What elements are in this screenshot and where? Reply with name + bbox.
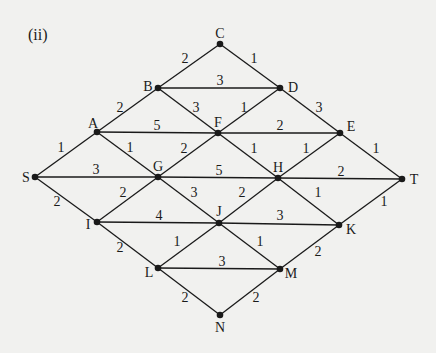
edge-weight-E-H: 1 (303, 141, 310, 156)
edge-S-A (35, 132, 97, 177)
edge-weight-A-B: 2 (117, 100, 124, 115)
edge-weight-N-M: 2 (253, 290, 260, 305)
edge-I-L (97, 222, 158, 268)
edge-weight-B-C: 2 (182, 51, 189, 66)
node-label-T: T (410, 172, 419, 187)
edge-B-C (158, 44, 220, 88)
edge-weight-I-J: 4 (156, 208, 163, 223)
node-label-K: K (346, 222, 356, 237)
edge-weight-C-D: 1 (251, 51, 258, 66)
edge-weight-I-L: 2 (117, 240, 124, 255)
edge-F-G (158, 133, 218, 177)
edge-H-J (219, 178, 278, 223)
edge-J-M (219, 223, 280, 269)
edge-D-F (218, 88, 280, 133)
edge-S-I (35, 177, 97, 222)
node-E (337, 130, 344, 137)
node-M (277, 266, 284, 273)
node-H (275, 175, 282, 182)
node-T (399, 176, 406, 183)
node-label-D: D (288, 80, 298, 95)
edge-J-L (158, 223, 219, 268)
edge-weight-F-H: 1 (251, 141, 258, 156)
edge-weight-J-K: 3 (277, 208, 284, 223)
edge-M-K (280, 225, 339, 269)
edge-weight-F-E: 2 (277, 118, 284, 133)
edge-weight-L-M: 3 (219, 254, 226, 269)
edge-weight-G-J: 3 (191, 185, 198, 200)
edge-weight-S-G: 3 (93, 162, 100, 177)
edge-weight-D-F: 1 (241, 100, 248, 115)
edge-weight-M-K: 2 (315, 244, 322, 259)
node-C (217, 41, 224, 48)
node-label-S: S (22, 170, 30, 185)
edge-A-B (97, 88, 158, 132)
edge-weight-G-I: 2 (120, 185, 127, 200)
node-J (216, 220, 223, 227)
edge-weight-B-F: 3 (193, 100, 200, 115)
edge-weight-H-K: 1 (315, 185, 322, 200)
node-D (277, 85, 284, 92)
node-label-C: C (215, 26, 224, 41)
weighted-graph: 132251233113221115223214312113222 CBDAFE… (0, 0, 436, 353)
edge-K-T (339, 179, 402, 225)
edge-N-M (220, 269, 280, 315)
node-S (32, 174, 39, 181)
edge-weight-S-I: 2 (54, 194, 61, 209)
part-label: (ii) (28, 26, 48, 44)
node-label-N: N (215, 320, 225, 335)
edge-weight-B-D: 3 (217, 73, 224, 88)
edge-weight-A-G: 1 (127, 140, 134, 155)
node-N (217, 312, 224, 319)
edge-G-I (97, 177, 158, 222)
node-label-A: A (88, 116, 99, 131)
edge-E-T (340, 133, 402, 179)
node-L (155, 265, 162, 272)
edge-weight-G-H: 5 (216, 163, 223, 178)
edge-weight-H-J: 2 (239, 185, 246, 200)
node-B (155, 85, 162, 92)
node-K (336, 222, 343, 229)
edge-B-F (158, 88, 218, 133)
edge-weight-E-T: 1 (373, 141, 380, 156)
node-label-E: E (347, 119, 356, 134)
node-label-F: F (214, 115, 222, 130)
edge-J-K (219, 223, 339, 225)
node-label-M: M (285, 266, 298, 281)
edge-weight-K-T: 1 (381, 194, 388, 209)
edge-weight-H-T: 2 (338, 164, 345, 179)
node-label-I: I (86, 217, 91, 232)
edge-H-K (278, 178, 339, 225)
network-diagram: (ii) 132251233113221115223214312113222 C… (0, 0, 436, 353)
node-G (155, 174, 162, 181)
edge-weight-F-G: 2 (181, 141, 188, 156)
edge-weight-J-M: 1 (257, 234, 264, 249)
edge-G-J (158, 177, 219, 223)
edge-weight-A-F: 5 (154, 118, 161, 133)
node-label-G: G (153, 159, 163, 174)
edge-weight-L-N: 2 (182, 290, 189, 305)
node-I (94, 219, 101, 226)
edge-weight-J-L: 1 (174, 234, 181, 249)
node-label-H: H (273, 160, 283, 175)
edge-weight-S-A: 1 (58, 140, 65, 155)
edge-weight-D-E: 3 (316, 100, 323, 115)
node-label-B: B (143, 79, 152, 94)
edge-F-H (218, 133, 278, 178)
node-label-L: L (145, 265, 154, 280)
edge-L-N (158, 268, 220, 315)
node-label-J: J (216, 204, 222, 219)
node-F (215, 130, 222, 137)
